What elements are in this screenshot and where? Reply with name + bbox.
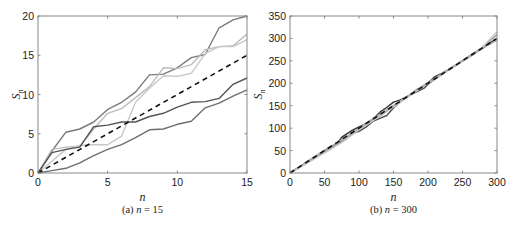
x-axis-label: n — [391, 190, 397, 204]
x-tick-label: 5 — [105, 176, 111, 188]
y-tick-label: 250 — [268, 55, 286, 67]
x-tick-label: 100 — [350, 176, 368, 188]
plot-area — [290, 16, 497, 173]
y-tick-label: 15 — [22, 49, 34, 61]
y-tick-label: 300 — [268, 32, 286, 44]
x-tick-label: 250 — [454, 176, 472, 188]
y-axis-label: Sn — [9, 90, 25, 100]
x-tick-label: 10 — [171, 176, 183, 188]
x-tick-label: 0 — [35, 176, 41, 188]
y-axis-label: Sn — [251, 90, 267, 100]
panel-caption: (b) n = 300 — [370, 204, 417, 216]
y-tick-label: 50 — [274, 145, 286, 157]
y-tick-label: 200 — [268, 77, 286, 89]
y-tick-label: 0 — [28, 167, 34, 179]
x-tick-label: 0 — [287, 176, 293, 188]
x-tick-label: 50 — [319, 176, 331, 188]
y-tick-label: 150 — [268, 100, 286, 112]
y-tick-label: 20 — [22, 10, 34, 22]
x-axis-label: n — [140, 190, 146, 204]
panel-a-n15: 05101505101520nSn(a) n = 15 — [9, 10, 253, 216]
y-tick-label: 5 — [28, 128, 34, 140]
x-tick-label: 200 — [419, 176, 437, 188]
y-tick-label: 350 — [268, 10, 286, 22]
x-tick-label: 150 — [385, 176, 403, 188]
y-tick-label: 0 — [280, 167, 286, 179]
panel-b-n300: 050100150200250300050100150200250300350n… — [251, 10, 506, 216]
figure: 05101505101520nSn(a) n = 15 050100150200… — [0, 0, 515, 229]
x-tick-label: 15 — [241, 176, 253, 188]
panel-caption: (a) n = 15 — [122, 204, 163, 216]
y-tick-label: 100 — [268, 122, 286, 134]
x-tick-label: 300 — [488, 176, 506, 188]
